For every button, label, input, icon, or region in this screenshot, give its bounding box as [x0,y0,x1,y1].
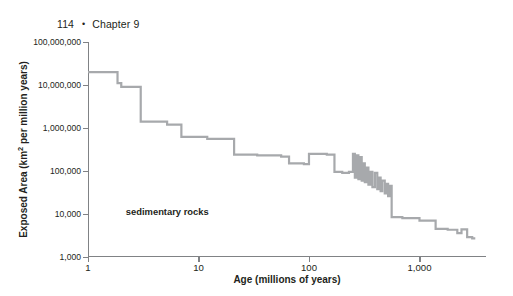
y-axis-title-tail: per million years) [18,61,29,147]
x-tick-label-1: 10 [193,262,204,273]
y-tick-label-2: 100,000 [50,166,81,176]
x-tick-label-0: 1 [85,262,90,273]
y-tick-label-5: 100,000,000 [33,37,81,47]
x-tick-label-2: 100 [301,262,317,273]
plot-area: 1,00010,000100,0001,000,00010,000,000100… [88,42,486,257]
page-canvas: 114•Chapter 9 Exposed Area (km2 per mill… [0,0,513,296]
running-head-separator: • [82,19,85,29]
y-axis-title-superscript: 2 [16,147,25,151]
x-tick-label-3: 1,000 [407,262,431,273]
y-tick-label-0: 1,000 [59,252,81,262]
y-tick-label-3: 1,000,000 [43,123,81,133]
y-tick-label-4: 10,000,000 [38,80,81,90]
series-sedimentary-rocks [88,42,486,257]
y-axis-title: Exposed Area (km2 per million years) [14,42,28,257]
y-tick-label-1: 10,000 [55,209,81,219]
chapter-title: Chapter 9 [92,18,139,30]
page-number: 114 [57,18,74,30]
y-axis-title-main: Exposed Area (km [18,151,29,238]
running-head: 114•Chapter 9 [57,18,139,30]
x-axis-title: Age (millions of years) [88,274,486,285]
series-annotation-label: sedimentary rocks [126,206,209,217]
